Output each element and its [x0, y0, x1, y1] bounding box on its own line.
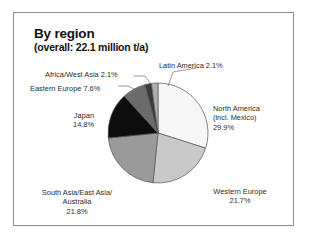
slice-label-south-asia-line2: Australia	[24, 197, 130, 206]
slice-label-eastern-europe: Eastern Europe 7.6%	[30, 84, 100, 93]
pie-chart-area: North America (incl. Mexico) 29.9% Weste…	[0, 0, 311, 239]
slice-label-eastern-europe-line1: Eastern Europe 7.6%	[30, 84, 100, 93]
slice-label-africa-west-asia: Africa/West Asia 2.1%	[45, 70, 118, 79]
slice-label-south-asia: South Asia/East Asia/ Australia 21.8%	[24, 188, 130, 216]
slice-label-latin-america: Latin America 2.1%	[159, 61, 223, 70]
pie-slice-group	[108, 83, 208, 183]
leader-line-latin-america	[168, 68, 196, 86]
slice-label-north-america-line3: 29.9%	[213, 123, 260, 132]
slice-label-western-europe-line2: 21.7%	[202, 196, 278, 205]
slice-label-japan-line1: Japan	[38, 111, 94, 120]
slice-label-japan: Japan 14.8%	[38, 111, 94, 130]
slice-label-western-europe-line1: Western Europe	[202, 187, 278, 196]
slice-label-north-america: North America (incl. Mexico) 29.9%	[213, 104, 260, 132]
slice-label-africa-west-asia-line1: Africa/West Asia 2.1%	[45, 70, 118, 79]
pie-slice	[108, 133, 158, 183]
slice-label-latin-america-line1: Latin America 2.1%	[159, 61, 223, 70]
slice-label-north-america-line1: North America	[213, 104, 260, 113]
slice-label-western-europe: Western Europe 21.7%	[202, 187, 278, 206]
slice-label-south-asia-line3: 21.8%	[24, 207, 130, 216]
slice-label-north-america-line2: (incl. Mexico)	[213, 113, 260, 122]
slice-label-japan-line2: 14.8%	[38, 120, 94, 129]
slice-label-south-asia-line1: South Asia/East Asia/	[24, 188, 130, 197]
